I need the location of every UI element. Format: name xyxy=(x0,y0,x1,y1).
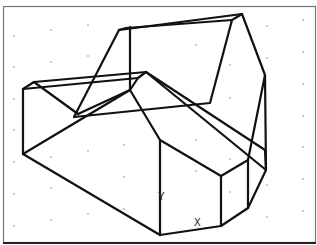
cad-viewport[interactable]: Y X xyxy=(0,0,317,245)
solid-edges xyxy=(23,14,266,235)
ucs-x-axis-label: X xyxy=(194,216,201,229)
wireframe-drawing: Y X xyxy=(0,0,317,245)
ucs-y-axis-label: Y xyxy=(158,190,165,203)
